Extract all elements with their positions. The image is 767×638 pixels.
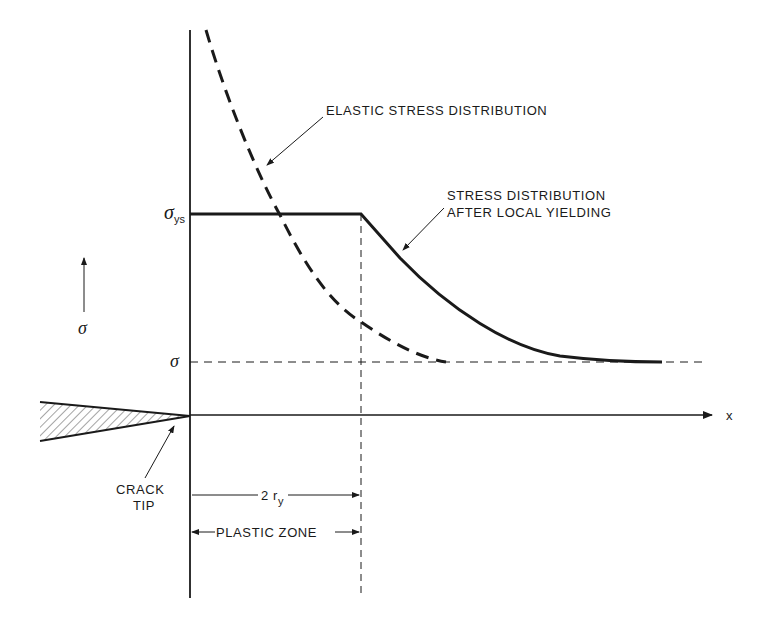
applied-sigma-label: σ xyxy=(170,351,180,371)
crack-tip-leader-arrow xyxy=(145,426,174,478)
elastic-leader-arrow xyxy=(267,117,323,165)
x-axis-label: x xyxy=(726,408,733,423)
plastic-zone-label: PLASTIC ZONE xyxy=(216,525,317,540)
yielded-distribution-label-line1: STRESS DISTRIBUTION xyxy=(447,188,606,203)
stress-distribution-diagram: x σys σ σ ELASTIC STRESS DISTRIBUTION ST… xyxy=(0,0,767,638)
sigma-ys-label: σys xyxy=(164,201,185,225)
elastic-distribution-label: ELASTIC STRESS DISTRIBUTION xyxy=(326,103,547,118)
crack-tip-label-line1: CRACK xyxy=(116,482,165,497)
elastic-stress-curve xyxy=(206,30,446,362)
crack-wedge xyxy=(40,402,190,441)
yielded-distribution-label-line2: AFTER LOCAL YIELDING xyxy=(447,205,611,220)
crack-tip-label-line2: TIP xyxy=(133,498,155,513)
two-ry-label: 2 ry xyxy=(261,488,284,507)
yielded-stress-curve xyxy=(190,214,662,362)
sigma-axis-label: σ xyxy=(78,318,88,338)
yielded-leader-arrow xyxy=(403,208,444,250)
